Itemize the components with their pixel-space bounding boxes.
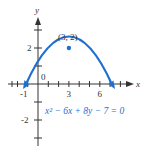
x-tick-label-6: 6	[98, 89, 103, 99]
y-axis-label: y	[34, 5, 39, 15]
x-tick-label-neg1: -1	[20, 89, 28, 99]
parabola-chart: x y 0 -1 3 6 2 -2 (3, 2) x² − 6x + 8y − …	[0, 0, 148, 153]
x-axis-arrow-icon	[126, 81, 134, 87]
origin-label: 0	[41, 72, 46, 82]
vertex-point	[67, 46, 71, 50]
y-axis-arrow-icon	[35, 17, 41, 25]
x-tick-label-3: 3	[67, 89, 72, 99]
y-tick-label-neg2: -2	[21, 115, 29, 125]
y-tick-label-2: 2	[27, 43, 32, 53]
x-axis-label: x	[135, 79, 140, 89]
vertex-label: (3, 2)	[58, 32, 78, 42]
parabola-curve	[26, 37, 113, 86]
equation-label: x² − 6x + 8y − 7 = 0	[44, 106, 124, 116]
